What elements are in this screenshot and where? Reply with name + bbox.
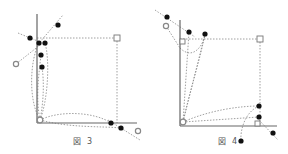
figure-4-right-angle-mark-top: [180, 39, 185, 44]
figure-4-caption: 図4: [218, 137, 237, 146]
point: [256, 103, 261, 108]
point: [108, 120, 113, 125]
point: [36, 40, 41, 45]
point: [186, 29, 191, 34]
figure-3-corner-square: [114, 35, 120, 41]
figure-panel: 図3 図4: [0, 0, 288, 154]
figure-4-corner-square: [257, 36, 263, 42]
figure-4: 図4: [155, 10, 278, 146]
point: [238, 138, 243, 143]
point: [39, 64, 44, 69]
figure-3-guides: [16, 15, 140, 140]
figure-3-origin-marker: [37, 117, 43, 123]
diagram-canvas: 図3 図4: [0, 0, 288, 154]
figure-4-origin-marker: [180, 119, 186, 125]
point: [38, 52, 43, 57]
open-point: [135, 128, 140, 133]
figure-3-caption: 図3: [73, 137, 92, 146]
point: [42, 40, 47, 45]
point: [27, 35, 32, 40]
point: [55, 22, 60, 27]
open-point: [163, 23, 168, 28]
open-point: [13, 61, 18, 66]
point: [164, 14, 169, 19]
point: [118, 125, 123, 130]
point: [256, 114, 261, 119]
figure-3: 図3: [13, 14, 140, 146]
figure-4-right-angle-mark-bottom: [255, 121, 260, 126]
point: [202, 31, 207, 36]
point: [270, 130, 275, 135]
